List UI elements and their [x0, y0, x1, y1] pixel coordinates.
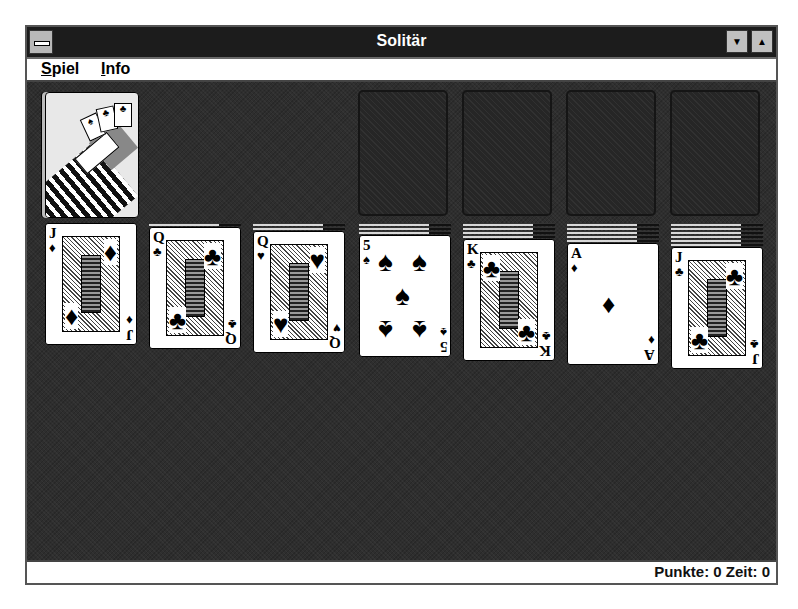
club-icon: ♣ [483, 255, 500, 281]
face-down-card-edge [149, 223, 241, 226]
playing-card[interactable]: J ♣ ♣ ♣ ♣ J [671, 247, 763, 369]
window-title: Solitär [27, 32, 776, 50]
card-rank: 5 [363, 238, 371, 253]
spade-icon: ♠ [363, 253, 370, 266]
face-down-card-edge [671, 231, 763, 234]
card-rank: K [467, 242, 479, 257]
heart-icon: ♥ [333, 322, 341, 335]
card-rank: Q [153, 230, 165, 245]
queen-face-art: ♥ ♥ [270, 244, 328, 340]
menu-spiel[interactable]: Spiel [41, 60, 79, 78]
club-icon: ♣ [675, 265, 684, 278]
status-bar: Punkte: 0 Zeit: 0 [27, 560, 776, 583]
face-down-card-edge [567, 223, 659, 226]
card-rank: Q [225, 331, 237, 346]
spade-icon: ♠ [412, 316, 427, 344]
face-down-card-edge [463, 231, 555, 234]
heart-icon: ♥ [273, 311, 288, 337]
face-down-card-edge [359, 223, 451, 226]
club-icon: ♣ [542, 330, 551, 343]
card-rank: A [644, 347, 655, 362]
menu-bar: Spiel Info [27, 59, 776, 82]
club-icon: ♣ [691, 327, 708, 353]
diamond-icon: ♦ [571, 261, 578, 274]
court-figure [707, 279, 727, 337]
face-down-card-edge [253, 227, 345, 230]
club-icon: ♣ [467, 257, 476, 270]
card-rank: 5 [440, 339, 448, 354]
spade-icon: ♠ [378, 248, 393, 276]
club-icon: ♣ [518, 319, 535, 345]
card-back-minicard: ♣ [114, 103, 132, 127]
card-rank: J [49, 226, 57, 241]
card-rank: J [126, 327, 134, 342]
score-time-status: Punkte: 0 Zeit: 0 [654, 563, 770, 580]
foundation-slot-2[interactable] [462, 90, 552, 216]
diamond-icon: ♦ [49, 241, 56, 254]
jack-face-art: ♦ ♦ [62, 236, 120, 332]
menu-spiel-accel: S [41, 60, 52, 77]
face-down-card-edge [463, 223, 555, 226]
face-down-card-edge [463, 235, 555, 238]
spade-icon: ♠ [440, 326, 447, 339]
face-down-card-edge [463, 227, 555, 230]
diamond-icon: ♦ [104, 239, 117, 265]
heart-icon: ♥ [257, 249, 265, 262]
club-icon: ♣ [204, 243, 221, 269]
face-down-card-edge [671, 239, 763, 242]
card-rank: J [675, 250, 683, 265]
foundation-slot-4[interactable] [670, 90, 760, 216]
king-face-art: ♣ ♣ [480, 252, 538, 348]
card-rank: A [571, 246, 582, 261]
diamond-icon: ♦ [648, 334, 655, 347]
face-down-card-edge [671, 243, 763, 246]
spade-icon: ♠ [412, 248, 427, 276]
court-figure [81, 255, 101, 313]
face-down-card-edge [567, 227, 659, 230]
club-icon: ♣ [726, 263, 743, 289]
foundation-slot-3[interactable] [566, 90, 656, 216]
card-rank: J [752, 351, 760, 366]
diamond-icon: ♦ [65, 303, 78, 329]
card-rank: K [539, 343, 551, 358]
spade-icon: ♠ [378, 316, 393, 344]
playing-card[interactable]: 5 ♠ ♠ ♠ ♠ ♠ ♠ ♠ 5 [359, 235, 451, 357]
face-down-card-edge [671, 235, 763, 238]
court-figure [185, 259, 205, 317]
face-down-card-edge [671, 223, 763, 226]
heart-icon: ♥ [310, 247, 325, 273]
playing-card[interactable]: Q ♥ ♥ ♥ ♥ Q [253, 231, 345, 353]
playing-card[interactable]: K ♣ ♣ ♣ ♣ K [463, 239, 555, 361]
face-down-card-edge [359, 227, 451, 230]
diamond-icon: ♦ [126, 314, 133, 327]
club-icon: ♣ [750, 338, 759, 351]
minimize-button[interactable]: ▼ [726, 30, 748, 53]
stock-pile[interactable]: ♠ ♣ ♣ [45, 92, 139, 218]
playing-card[interactable]: J ♦ ♦ ♦ ♦ J [45, 223, 137, 345]
game-table: ♠ ♣ ♣ J ♦ ♦ ♦ ♦ J [27, 82, 776, 560]
playing-card[interactable]: A ♦ ♦ ♦ A [567, 243, 659, 365]
card-rank: Q [257, 234, 269, 249]
face-down-card-edge [567, 235, 659, 238]
face-down-card-edge [359, 231, 451, 234]
face-down-card-edge [671, 227, 763, 230]
face-down-card-edge [567, 231, 659, 234]
spade-icon: ♠ [395, 282, 410, 310]
solitaire-window: Solitär ▼ ▲ Spiel Info ♠ ♣ ♣ J ♦ [25, 25, 778, 585]
court-figure [289, 263, 309, 321]
club-icon: ♣ [153, 245, 162, 258]
face-down-card-edge [253, 223, 345, 226]
card-rank: Q [329, 335, 341, 350]
menu-spiel-label: piel [52, 60, 80, 77]
maximize-button[interactable]: ▲ [751, 30, 773, 53]
court-figure [499, 271, 519, 329]
foundation-slot-1[interactable] [358, 90, 448, 216]
club-icon: ♣ [228, 318, 237, 331]
playing-card[interactable]: Q ♣ ♣ ♣ ♣ Q [149, 227, 241, 349]
menu-info[interactable]: Info [101, 60, 130, 78]
club-icon: ♣ [169, 307, 186, 333]
title-bar[interactable]: Solitär ▼ ▲ [27, 27, 776, 59]
menu-info-label: nfo [105, 60, 130, 77]
queen-face-art: ♣ ♣ [166, 240, 224, 336]
jack-face-art: ♣ ♣ [688, 260, 746, 356]
